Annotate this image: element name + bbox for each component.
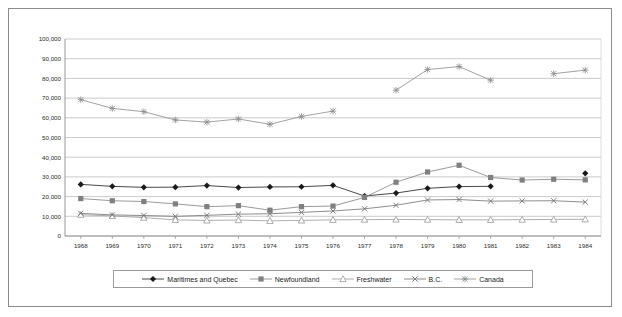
data-point <box>141 199 146 204</box>
data-point <box>424 185 430 191</box>
y-axis-tick-label: 100,000 <box>39 35 62 42</box>
y-axis-tick-label: 70,000 <box>42 94 61 101</box>
legend-item[interactable]: Newfoundland <box>250 274 320 284</box>
x-axis-tick-label: 1984 <box>578 242 592 249</box>
y-axis-tick-label: 10,000 <box>42 213 61 220</box>
line-chart: 010,00020,00030,00040,00050,00060,00070,… <box>9 9 613 308</box>
data-point <box>424 66 430 72</box>
legend-item-label: B.C. <box>429 276 443 283</box>
data-point <box>457 163 462 168</box>
data-point <box>109 105 115 111</box>
legend-item-label: Freshwater <box>357 276 392 283</box>
legend-item[interactable]: Canada <box>454 274 504 284</box>
x-axis-tick-label: 1971 <box>168 242 182 249</box>
plot-area: 010,00020,00030,00040,00050,00060,00070,… <box>9 9 613 308</box>
x-axis-tick-label: 1975 <box>295 242 309 249</box>
data-point <box>267 184 273 190</box>
data-point <box>204 182 210 188</box>
data-point <box>551 70 557 76</box>
x-axis-tick-label: 1972 <box>200 242 214 249</box>
y-axis-tick-label: 0 <box>58 232 62 239</box>
legend-marker-icon <box>462 276 468 282</box>
data-point <box>172 184 178 190</box>
legend-item-label: Maritimes and Quebec <box>167 276 237 283</box>
series-maritimes-and-quebec <box>78 170 589 199</box>
x-axis-tick-label: 1983 <box>547 242 561 249</box>
data-point <box>393 87 399 93</box>
data-point <box>267 121 273 127</box>
legend-item[interactable]: Freshwater <box>332 274 392 284</box>
y-axis-tick-label: 30,000 <box>42 173 61 180</box>
data-point <box>582 170 588 176</box>
data-point <box>141 184 147 190</box>
data-point <box>204 204 209 209</box>
x-axis-tick-label: 1982 <box>515 242 529 249</box>
data-point <box>487 77 493 83</box>
chart-frame: 010,00020,00030,00040,00050,00060,00070,… <box>8 8 612 307</box>
data-point <box>456 63 462 69</box>
data-point <box>583 177 588 182</box>
y-axis-tick-label: 80,000 <box>42 75 61 82</box>
x-axis-tick-label: 1977 <box>358 242 372 249</box>
data-point <box>425 169 430 174</box>
legend-marker-icon <box>332 274 354 284</box>
x-axis-tick-label: 1978 <box>389 242 403 249</box>
y-axis-tick-label: 40,000 <box>42 154 61 161</box>
legend-marker-icon <box>150 276 156 282</box>
legend-marker-icon <box>404 274 426 284</box>
data-point <box>488 175 493 180</box>
y-axis-tick-label: 20,000 <box>42 193 61 200</box>
x-axis-tick-label: 1976 <box>326 242 340 249</box>
data-point <box>582 67 588 73</box>
legend-item[interactable]: Maritimes and Quebec <box>142 274 237 284</box>
data-point <box>330 108 336 114</box>
data-point <box>141 108 147 114</box>
legend-marker-icon <box>258 276 263 281</box>
x-axis-tick-label: 1970 <box>137 242 151 249</box>
data-point <box>298 184 304 190</box>
data-point <box>78 96 84 102</box>
data-point <box>456 183 462 189</box>
data-point <box>172 117 178 123</box>
data-point <box>551 177 556 182</box>
data-point <box>488 183 494 189</box>
y-axis-tick-label: 60,000 <box>42 114 61 121</box>
x-axis-tick-label: 1974 <box>263 242 277 249</box>
x-axis-tick-label: 1969 <box>105 242 119 249</box>
data-point <box>393 190 399 196</box>
legend-item-label: Canada <box>479 276 504 283</box>
x-axis-tick-label: 1979 <box>421 242 435 249</box>
series-freshwater <box>78 212 589 224</box>
data-point <box>520 177 525 182</box>
data-point <box>109 183 115 189</box>
y-axis-tick-label: 90,000 <box>42 55 61 62</box>
chart-legend: Maritimes and QuebecNewfoundlandFreshwat… <box>113 270 533 288</box>
data-point <box>235 116 241 122</box>
x-axis-tick-label: 1968 <box>74 242 88 249</box>
x-axis-tick-label: 1973 <box>232 242 246 249</box>
data-point <box>110 198 115 203</box>
x-axis-tick-label: 1980 <box>452 242 466 249</box>
legend-marker-icon <box>142 274 164 284</box>
legend-marker-icon <box>454 274 476 284</box>
y-axis-tick-label: 50,000 <box>42 134 61 141</box>
x-axis-tick-label: 1981 <box>484 242 498 249</box>
data-point <box>236 203 241 208</box>
data-point <box>330 203 335 208</box>
data-point <box>204 119 210 125</box>
legend-item[interactable]: B.C. <box>404 274 443 284</box>
legend-item-label: Newfoundland <box>275 276 320 283</box>
data-point <box>298 113 304 119</box>
data-point <box>299 204 304 209</box>
data-point <box>173 201 178 206</box>
data-point <box>330 182 336 188</box>
data-point <box>78 181 84 187</box>
data-point <box>393 180 398 185</box>
data-point <box>78 196 83 201</box>
data-point <box>235 184 241 190</box>
legend-marker-icon <box>250 274 272 284</box>
data-point <box>362 195 367 200</box>
